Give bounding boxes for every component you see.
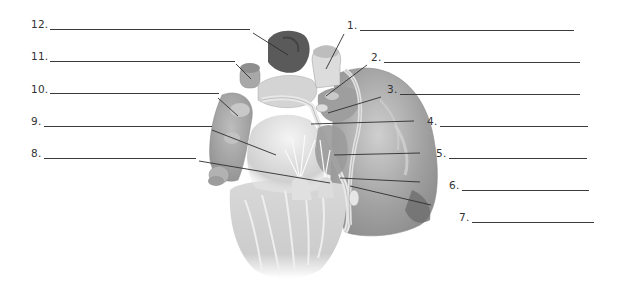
answer-blank-9[interactable]	[44, 126, 212, 127]
answer-blank-12[interactable]	[50, 29, 250, 30]
label-number-9: 9.	[31, 115, 41, 127]
label-number-6: 6.	[449, 179, 459, 191]
heart-labeling-worksheet: 1.2.3.4.5.6.7.8.9.10.11.12.	[0, 0, 622, 290]
answer-blank-6[interactable]	[462, 190, 589, 191]
answer-blank-1[interactable]	[360, 30, 574, 31]
answer-blank-7[interactable]	[472, 222, 594, 223]
answer-blank-4[interactable]	[440, 126, 588, 127]
label-number-11: 11.	[31, 50, 48, 62]
label-number-4: 4.	[427, 115, 437, 127]
aorta	[312, 46, 341, 88]
label-number-12: 12.	[31, 18, 48, 30]
answer-blank-3[interactable]	[400, 94, 580, 95]
label-number-1: 1.	[347, 19, 357, 31]
label-number-7: 7.	[459, 211, 469, 223]
answer-blank-11[interactable]	[50, 61, 235, 62]
superior-vena-cava	[240, 63, 260, 88]
label-number-3: 3.	[387, 83, 397, 95]
answer-blank-8[interactable]	[44, 158, 196, 159]
inferior-vena-cava	[208, 166, 229, 186]
answer-blank-2[interactable]	[384, 62, 580, 63]
answer-blank-5[interactable]	[449, 158, 587, 159]
answer-blank-10[interactable]	[50, 93, 219, 94]
label-number-2: 2.	[371, 51, 381, 63]
label-number-10: 10.	[31, 83, 48, 95]
label-number-5: 5.	[436, 147, 446, 159]
heart-illustration	[0, 0, 622, 290]
label-number-8: 8.	[31, 147, 41, 159]
